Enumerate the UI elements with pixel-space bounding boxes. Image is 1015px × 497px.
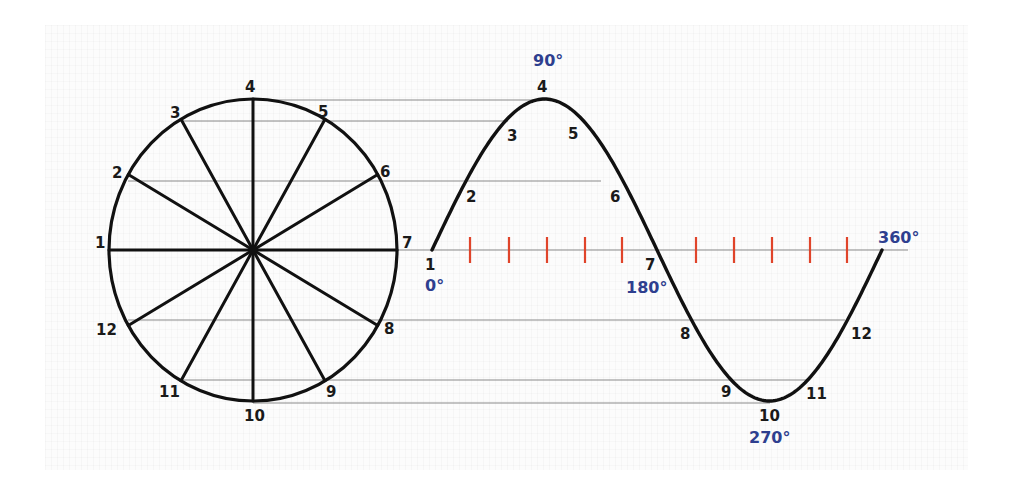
degree-label-180: 180°: [626, 278, 667, 297]
circle-point-label-9: 9: [326, 383, 336, 401]
wave-point-label-3: 3: [507, 127, 517, 145]
spoke-9: [253, 250, 325, 381]
diagram-canvas: 123456789101112 123456789101112 0°90°180…: [0, 0, 1015, 497]
wave-point-labels: 123456789101112: [425, 78, 872, 425]
degree-labels: 0°90°180°270°360°: [425, 51, 919, 447]
circle-point-label-6: 6: [380, 163, 390, 181]
wave-point-label-9: 9: [721, 383, 731, 401]
degree-label-90: 90°: [533, 51, 563, 70]
center-hub: [249, 246, 257, 254]
degree-label-360: 360°: [878, 228, 919, 247]
wave-point-label-10: 10: [759, 407, 780, 425]
spoke-11: [181, 250, 253, 381]
degree-label-0: 0°: [425, 276, 444, 295]
spoke-8: [253, 250, 378, 326]
spoke-2: [128, 175, 253, 251]
spoke-12: [128, 250, 253, 326]
wave-point-label-6: 6: [610, 188, 620, 206]
circle-point-label-1: 1: [95, 234, 105, 252]
wave-point-label-4: 4: [537, 78, 547, 96]
wave-point-label-11: 11: [806, 385, 827, 403]
circle-point-label-8: 8: [384, 320, 394, 338]
wave-point-label-2: 2: [466, 188, 476, 206]
sine-wave-diagram: 123456789101112 123456789101112 0°90°180…: [0, 0, 1015, 497]
circle-point-label-5: 5: [318, 103, 328, 121]
circle-point-label-2: 2: [112, 164, 122, 182]
spoke-3: [181, 119, 253, 250]
spoke-6: [253, 175, 378, 251]
wave-point-label-7: 7: [645, 256, 655, 274]
spoke-5: [253, 119, 325, 250]
wave-point-label-8: 8: [680, 325, 690, 343]
circle-point-label-3: 3: [170, 104, 180, 122]
wave-point-label-12: 12: [851, 325, 872, 343]
circle-point-label-10: 10: [244, 407, 265, 425]
wave-point-label-1: 1: [425, 256, 435, 274]
circle-point-label-11: 11: [159, 383, 180, 401]
degree-label-270: 270°: [749, 428, 790, 447]
wave-point-label-5: 5: [568, 125, 578, 143]
circle-point-label-4: 4: [245, 78, 255, 96]
circle-point-label-7: 7: [402, 234, 412, 252]
circle-point-label-12: 12: [96, 321, 117, 339]
